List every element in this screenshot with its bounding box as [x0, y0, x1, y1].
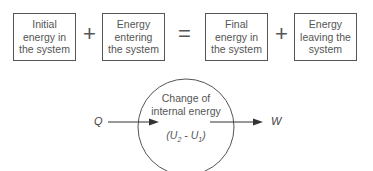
formula-part: (U — [166, 129, 177, 141]
final-energy-box: Final energy in the system — [205, 13, 268, 61]
box-line: the system — [211, 43, 262, 55]
heat-input-label: Q — [94, 115, 103, 127]
box-line: leaving the — [300, 31, 351, 43]
work-output-label: W — [271, 115, 281, 127]
box-line: Energy — [117, 18, 150, 30]
box-line: Initial — [32, 18, 57, 30]
box-line: entering — [115, 31, 153, 43]
circle-title-line: Change of — [162, 92, 210, 104]
circle-title: Change of internal energy — [136, 92, 236, 117]
formula-part: - U — [181, 129, 198, 141]
internal-energy-formula: (U2 - U1) — [146, 129, 226, 147]
formula-part: ) — [202, 129, 206, 141]
box-line: Energy — [309, 18, 342, 30]
circle-title-line: internal energy — [151, 105, 220, 117]
box-line: Final — [225, 18, 248, 30]
work-out-arrowhead — [253, 119, 263, 126]
energy-entering-box: Energy entering the system — [102, 13, 165, 61]
box-line: the system — [19, 43, 70, 55]
box-line: the system — [108, 43, 159, 55]
box-line: system — [309, 43, 342, 55]
box-line: energy in — [215, 31, 258, 43]
plus-operator: + — [275, 22, 288, 46]
box-line: energy in — [23, 31, 66, 43]
initial-energy-box: Initial energy in the system — [13, 13, 76, 61]
energy-leaving-box: Energy leaving the system — [294, 13, 357, 61]
equals-operator: = — [178, 22, 191, 46]
heat-in-arrowhead — [149, 119, 159, 126]
plus-operator: + — [83, 22, 96, 46]
